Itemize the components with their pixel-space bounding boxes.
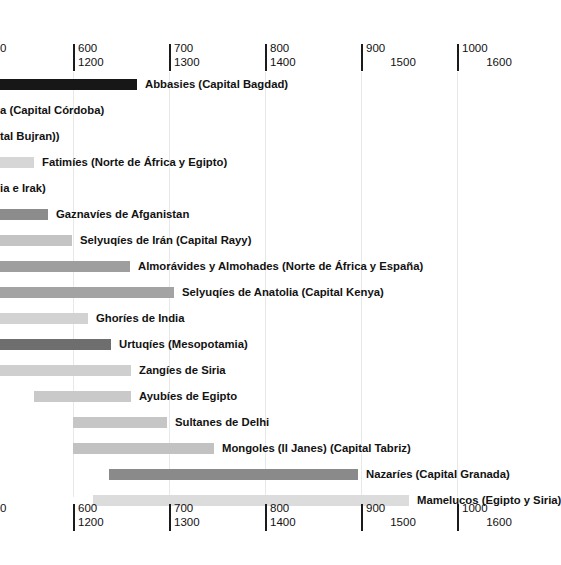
bar-label: tal Bujran)) — [0, 127, 60, 145]
timeline-bar[interactable] — [0, 287, 174, 298]
bar-label: Mongoles (Il Janes) (Capital Tabriz) — [222, 439, 411, 457]
tick-label-gregorian: 1500 — [366, 515, 440, 529]
timeline-bar[interactable] — [0, 261, 130, 272]
timeline-bar[interactable] — [109, 469, 358, 480]
tick-label-group: 7001300 — [174, 501, 248, 529]
timeline-bar[interactable] — [0, 235, 72, 246]
bar-label: Ayubíes de Egipto — [139, 387, 237, 405]
tick-label-group: 6001200 — [78, 41, 152, 69]
chart-row[interactable]: Fatimíes (Norte de África y Egipto) — [0, 150, 559, 176]
tick-label-hijri: 1000 — [462, 41, 536, 55]
timeline-bar[interactable] — [0, 365, 131, 376]
bar-label: a (Capital Córdoba) — [0, 101, 104, 119]
tick-label-gregorian: 1400 — [270, 515, 344, 529]
tick-label-hijri: 1000 — [462, 501, 536, 515]
tick-label-hijri: 700 — [174, 501, 248, 515]
tick-mark — [361, 504, 363, 531]
chart-row[interactable]: Gaznavíes de Afganistan — [0, 202, 559, 228]
timeline-bar[interactable] — [0, 209, 48, 220]
chart-row[interactable]: Ayubíes de Egipto — [0, 384, 559, 410]
tick-label-gregorian: 1200 — [78, 55, 152, 69]
tick-label-group: 6001200 — [78, 501, 152, 529]
tick-mark — [361, 44, 363, 71]
tick-mark — [265, 504, 267, 531]
bar-label: Selyuqíes de Irán (Capital Rayy) — [80, 231, 251, 249]
bar-label: Nazaríes (Capital Granada) — [366, 465, 510, 483]
chart-row[interactable]: Almorávides y Almohades (Norte de África… — [0, 254, 559, 280]
tick-mark — [457, 504, 459, 531]
axis-bottom: 0600120070013008001400900150010001600 — [0, 504, 559, 538]
tick-label-gregorian: 1200 — [78, 515, 152, 529]
tick-label-gregorian: 1400 — [270, 55, 344, 69]
tick-label-gregorian: 1600 — [462, 515, 536, 529]
tick-label-gregorian: 1600 — [462, 55, 536, 69]
timeline-bar[interactable] — [0, 79, 137, 90]
chart-row[interactable]: ia e Irak) — [0, 176, 559, 202]
tick-label-group: 7001300 — [174, 41, 248, 69]
timeline-bar[interactable] — [0, 339, 111, 350]
tick-label-gregorian: 1300 — [174, 515, 248, 529]
tick-label-group: 9001500 — [366, 41, 440, 69]
bar-label: Sultanes de Delhi — [175, 413, 269, 431]
tick-label-hijri: 0 — [0, 501, 74, 515]
timeline-bar[interactable] — [73, 417, 167, 428]
tick-label-group: 10001600 — [462, 41, 536, 69]
bar-label: Almorávides y Almohades (Norte de África… — [138, 257, 423, 275]
tick-label-hijri: 900 — [366, 501, 440, 515]
bar-label: Gaznavíes de Afganistan — [56, 205, 189, 223]
bar-label: Fatimíes (Norte de África y Egipto) — [42, 153, 227, 171]
timeline-bar[interactable] — [0, 313, 88, 324]
bar-label: Urtuqíes (Mesopotamia) — [119, 335, 248, 353]
tick-mark — [73, 504, 75, 531]
tick-label-hijri: 800 — [270, 41, 344, 55]
tick-label-group: 10001600 — [462, 501, 536, 529]
bar-label: Selyuqíes de Anatolia (Capital Kenya) — [182, 283, 384, 301]
bar-label: Ghoríes de India — [96, 309, 185, 327]
chart-bars-area: Abbasies (Capital Bagdad)a (Capital Córd… — [0, 72, 559, 497]
tick-label-group: 8001400 — [270, 41, 344, 69]
timeline-bar[interactable] — [0, 157, 34, 168]
timeline-bar[interactable] — [34, 391, 131, 402]
chart-row[interactable]: Ghoríes de India — [0, 306, 559, 332]
chart-row[interactable]: Selyuqíes de Anatolia (Capital Kenya) — [0, 280, 559, 306]
tick-label-hijri: 800 — [270, 501, 344, 515]
tick-mark — [169, 44, 171, 71]
tick-mark — [265, 44, 267, 71]
tick-label-hijri: 700 — [174, 41, 248, 55]
chart-row[interactable]: a (Capital Córdoba) — [0, 98, 559, 124]
tick-label-hijri: 900 — [366, 41, 440, 55]
timeline-bar[interactable] — [73, 443, 214, 454]
tick-label-gregorian: 1300 — [174, 55, 248, 69]
tick-label-hijri: 0 — [0, 41, 74, 55]
chart-row[interactable]: Abbasies (Capital Bagdad) — [0, 72, 559, 98]
tick-label-hijri: 600 — [78, 41, 152, 55]
tick-mark — [169, 504, 171, 531]
tick-label-group: 0 — [0, 41, 74, 55]
chart-row[interactable]: tal Bujran)) — [0, 124, 559, 150]
tick-label-group: 8001400 — [270, 501, 344, 529]
tick-label-hijri: 600 — [78, 501, 152, 515]
chart-row[interactable]: Zangíes de Siria — [0, 358, 559, 384]
chart-row[interactable]: Nazaríes (Capital Granada) — [0, 462, 559, 488]
tick-mark — [457, 44, 459, 71]
tick-label-gregorian: 1500 — [366, 55, 440, 69]
tick-label-group: 0 — [0, 501, 74, 515]
bar-label: ia e Irak) — [0, 179, 46, 197]
bar-label: Zangíes de Siria — [139, 361, 226, 379]
chart-row[interactable]: Urtuqíes (Mesopotamia) — [0, 332, 559, 358]
chart-row[interactable]: Selyuqíes de Irán (Capital Rayy) — [0, 228, 559, 254]
chart-row[interactable]: Mongoles (Il Janes) (Capital Tabriz) — [0, 436, 559, 462]
tick-label-group: 9001500 — [366, 501, 440, 529]
tick-mark — [73, 44, 75, 71]
bar-label: Abbasies (Capital Bagdad) — [145, 75, 288, 93]
chart-row[interactable]: Sultanes de Delhi — [0, 410, 559, 436]
